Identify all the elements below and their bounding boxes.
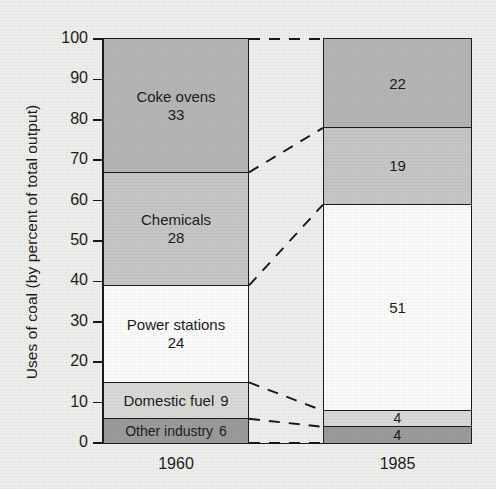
segment-label: Chemicals xyxy=(141,211,211,229)
y-axis-tick-90 xyxy=(93,79,103,81)
y-axis-tick-10 xyxy=(93,402,103,404)
segment-label: Other industry xyxy=(125,423,213,440)
y-axis-tick-70 xyxy=(93,159,103,161)
bar-segment-chemicals: 19 xyxy=(323,127,472,205)
connector-line-2 xyxy=(249,205,323,286)
bar-segment-power-stations: 51 xyxy=(323,204,472,411)
segment-value: 22 xyxy=(389,75,406,93)
y-axis-tick-100 xyxy=(93,38,103,40)
bar-segment-coke-ovens: Coke ovens33 xyxy=(103,38,249,173)
segment-value: 4 xyxy=(394,410,402,427)
bar-segment-other-industry: 4 xyxy=(323,426,472,444)
connector-line-4 xyxy=(249,419,323,427)
connector-line-1 xyxy=(249,128,323,172)
segment-value: 4 xyxy=(394,427,402,444)
y-axis-tick-30 xyxy=(93,321,103,323)
bar-segment-other-industry: Other industry6 xyxy=(103,418,249,444)
segment-label: Coke ovens xyxy=(136,88,215,106)
y-axis-tick-0 xyxy=(93,442,103,444)
y-axis-tick-60 xyxy=(93,200,103,202)
y-axis-tick-40 xyxy=(93,281,103,283)
bar-segment-domestic-fuel: 4 xyxy=(323,410,472,428)
segment-value: 19 xyxy=(389,157,406,175)
segment-value: 6 xyxy=(219,423,227,440)
segment-label: Power stations xyxy=(127,316,225,334)
bar-1960: Coke ovens33Chemicals28Power stations24D… xyxy=(103,39,249,443)
y-axis-tick-80 xyxy=(93,119,103,121)
segment-value: 33 xyxy=(168,106,185,124)
bar-segment-power-stations: Power stations24 xyxy=(103,285,249,383)
chart-figure: Uses of coal (by percent of total output… xyxy=(0,0,496,489)
y-axis-tick-20 xyxy=(93,361,103,363)
connector-line-3 xyxy=(249,382,323,410)
segment-value: 9 xyxy=(220,392,228,410)
bar-segment-domestic-fuel: Domestic fuel9 xyxy=(103,382,249,420)
segment-label: Domestic fuel xyxy=(123,392,214,410)
y-axis-tick-50 xyxy=(93,240,103,242)
bar-1985: 22195144 xyxy=(323,39,472,443)
bar-segment-chemicals: Chemicals28 xyxy=(103,172,249,287)
segment-value: 28 xyxy=(168,229,185,247)
bar-segment-coke-ovens: 22 xyxy=(323,38,472,128)
segment-value: 51 xyxy=(389,299,406,317)
segment-value: 24 xyxy=(168,334,185,352)
